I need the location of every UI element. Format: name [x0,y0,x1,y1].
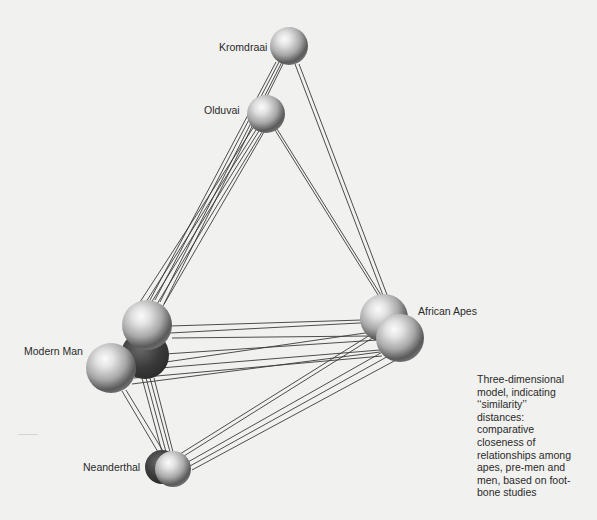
caption-line: Three-dimensional [477,373,595,386]
caption-line: bone studies [477,486,595,499]
sphere-icon [270,27,308,65]
node-modern-man [86,300,172,393]
sphere-icon [376,314,424,362]
connector-line [277,129,384,300]
label-modern-man: Modern Man [24,346,83,357]
caption-line: apes, pre-men and [477,461,595,474]
label-african-apes: African Apes [418,306,477,317]
edge-olduvai-modern-man [140,128,264,306]
connector-line [188,350,386,462]
edge-modern-man-neanderthal [122,378,173,452]
caption-line: relationships among [477,449,595,462]
figure-caption: Three-dimensional model, indicating ‘‘si… [477,373,595,499]
caption-line: comparative [477,423,595,436]
node-olduvai [247,95,285,133]
caption-line: model, indicating [477,386,595,399]
connector-line [275,130,380,298]
connector-line [190,354,392,466]
connector-line [142,378,162,452]
caption-line: distances: [477,411,595,424]
connector-line [180,330,378,454]
node-kromdraai [270,27,308,65]
connector-line [295,64,384,298]
node-layer [86,27,424,487]
connector-line [146,130,256,302]
sphere-icon [155,451,191,487]
connector-line [140,128,253,302]
connector-line [299,64,389,300]
connector-line [150,378,170,452]
connector-line [146,378,166,452]
print-artifact [18,434,38,435]
caption-line: ‘‘similarity’’ [477,398,595,411]
connector-line [122,391,158,452]
edge-kromdraai-african-apes [295,64,389,300]
connector-line [192,360,396,470]
label-olduvai: Olduvai [204,105,240,116]
label-kromdraai: Kromdraai [219,42,267,53]
sphere-icon [247,95,285,133]
caption-line: closeness of [477,436,595,449]
sphere-icon [122,300,172,350]
label-neanderthal: Neanderthal [83,462,140,473]
connector-line [157,132,262,304]
connector-line [163,132,264,306]
connector-line [170,320,362,326]
node-african-apes [360,294,424,362]
sphere-icon [86,343,136,393]
connector-line [170,322,378,333]
caption-line: men, based on foot- [477,474,595,487]
connector-line [151,131,259,303]
node-neanderthal [145,450,191,487]
